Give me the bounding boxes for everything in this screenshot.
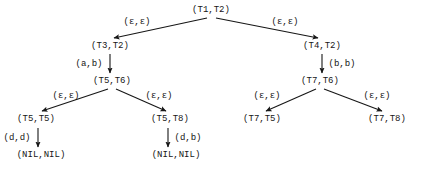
edge-label: (ε,ε) [271,17,298,27]
tree-edge: (ε,ε) [324,89,391,111]
edge-label: (ε,ε) [52,91,79,101]
edge-label: (ε,ε) [145,91,172,101]
tree-node-n6: (T5,T8) [151,114,189,124]
tree-edge: (ε,ε) [253,89,316,111]
tree-edge: (ε,ε) [216,17,318,38]
edge-label: (ε,ε) [363,91,390,101]
tree-node-n4: (T7,T6) [301,76,339,86]
tree-nodes-group: (T1,T2)(T3,T2)(T4,T2)(T5,T6)(T7,T6)(T5,T… [17,5,406,160]
tree-node-n10: (NIL,NIL) [152,150,201,160]
tree-edge: (d,d) [3,128,38,147]
edge-label: (ε,ε) [123,17,150,27]
tree-node-n3: (T5,T6) [93,76,131,86]
tree-node-n0: (T1,T2) [192,5,230,15]
tree-edge: (a,b) [75,54,110,73]
tree-edge: (ε,ε) [42,89,108,111]
tree-node-n9: (NIL,NIL) [17,150,66,160]
tree-edge: (b,b) [322,54,356,73]
tree-node-n5: (T5,T5) [17,114,55,124]
derivation-tree-diagram: (ε,ε)(ε,ε)(a,b)(b,b)(ε,ε)(ε,ε)(ε,ε)(ε,ε)… [0,0,422,172]
edge-label: (d,b) [174,133,201,143]
tree-edge: (d,b) [168,128,202,147]
tree-edge: (ε,ε) [116,89,173,111]
tree-edge: (ε,ε) [114,17,207,38]
edge-label: (ε,ε) [253,91,280,101]
tree-node-n2: (T4,T2) [303,41,341,51]
edge-label: (a,b) [75,59,102,69]
tree-node-n8: (T7,T8) [368,114,406,124]
tree-node-n1: (T3,T2) [91,41,129,51]
edge-arrow [216,18,318,38]
tree-node-n7: (T7,T5) [243,114,281,124]
edge-label: (b,b) [328,59,355,69]
edge-label: (d,d) [3,133,30,143]
